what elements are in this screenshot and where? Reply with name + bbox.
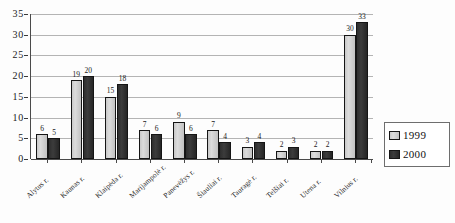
bars-layer: 65192015187696743423223033 bbox=[31, 14, 373, 159]
y-axis-tick-mark bbox=[24, 14, 28, 15]
x-axis-category-label: Kaunas r. bbox=[59, 174, 86, 200]
bar bbox=[48, 138, 60, 159]
y-axis-tick-mark bbox=[24, 76, 28, 77]
x-axis-category-label: Alytus r. bbox=[25, 176, 50, 200]
y-axis-tick-label: 15 bbox=[12, 92, 24, 102]
y-axis-tick-mark bbox=[24, 55, 28, 56]
bar bbox=[105, 97, 117, 159]
light-gray-swatch-icon bbox=[389, 131, 400, 140]
bar bbox=[117, 84, 129, 159]
bar-value-label: 20 bbox=[81, 67, 97, 75]
bar-value-label: 7 bbox=[205, 121, 221, 129]
y-axis-tick-mark bbox=[24, 118, 28, 119]
legend-label: 1999 bbox=[403, 130, 426, 141]
x-axis-category-label: Marijampolė r. bbox=[128, 163, 168, 200]
bar-value-label: 2 bbox=[320, 141, 336, 149]
y-axis-tick-label: 20 bbox=[12, 71, 24, 81]
bar bbox=[322, 151, 334, 159]
legend-label: 2000 bbox=[403, 149, 426, 160]
x-axis-category-label: Šiauliai r. bbox=[196, 174, 224, 200]
bar bbox=[83, 76, 95, 159]
bar bbox=[344, 35, 356, 159]
x-axis-category-label: Klaipėda r. bbox=[94, 171, 125, 200]
bar-value-label: 9 bbox=[171, 112, 187, 120]
x-axis-labels: Alytus r.Kaunas r.Klaipėda r.Marijampolė… bbox=[0, 160, 455, 223]
y-axis-tick-label: 35 bbox=[12, 9, 24, 19]
bar bbox=[356, 22, 368, 159]
y-axis-tick-mark bbox=[24, 97, 28, 98]
bar bbox=[139, 130, 151, 159]
bar bbox=[242, 147, 254, 159]
bar-value-label: 6 bbox=[183, 125, 199, 133]
x-axis-category-label: Telšiai r. bbox=[265, 176, 290, 200]
bar-value-label: 4 bbox=[252, 133, 268, 141]
bar bbox=[151, 134, 163, 159]
bar bbox=[71, 80, 83, 159]
x-axis-category-label: Utena r. bbox=[299, 178, 323, 200]
legend: 1999 2000 bbox=[384, 122, 450, 167]
bar-value-label: 33 bbox=[354, 13, 370, 21]
x-axis-category-label: Vilnius r. bbox=[333, 175, 360, 200]
bar-value-label: 18 bbox=[115, 75, 131, 83]
x-axis-category-label: Panevėžys r. bbox=[162, 168, 196, 200]
y-axis-tick-label: 25 bbox=[12, 50, 24, 60]
dark-gray-swatch-icon bbox=[389, 150, 400, 159]
legend-entry-1999[interactable]: 1999 bbox=[389, 127, 426, 143]
legend-entry-2000[interactable]: 2000 bbox=[389, 146, 426, 162]
bar bbox=[185, 134, 197, 159]
bar bbox=[219, 142, 231, 159]
bar bbox=[36, 134, 48, 159]
y-axis-tick-label: 30 bbox=[12, 30, 24, 40]
bar bbox=[276, 151, 288, 159]
bar-value-label: 3 bbox=[286, 137, 302, 145]
bar-value-label: 4 bbox=[217, 133, 233, 141]
bar bbox=[254, 142, 266, 159]
plot-area: 65192015187696743423223033 bbox=[30, 14, 372, 159]
bar-value-label: 5 bbox=[46, 129, 62, 137]
bar bbox=[288, 147, 300, 159]
x-axis-category-label: Tauragė r. bbox=[230, 173, 258, 200]
bar-chart: 05101520253035 6519201518769674342322303… bbox=[0, 0, 455, 223]
bar-value-label: 6 bbox=[149, 125, 165, 133]
bar bbox=[310, 151, 322, 159]
y-axis-tick-label: 10 bbox=[12, 113, 24, 123]
y-axis-tick-mark bbox=[24, 138, 28, 139]
y-axis-tick-mark bbox=[24, 35, 28, 36]
